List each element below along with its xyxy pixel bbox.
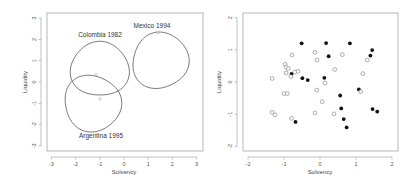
open-point [332,112,336,116]
right-plot-panel: -2-1012 -2-1012 Solvency Liquidity [216,13,398,175]
right-x-axis-title: Solvency [308,169,332,175]
y-tick-label: 2 [31,38,37,41]
left-plot-panel: -3-2-10123 -3-2-10123 Solvency Liquidity… [22,13,203,175]
x-tick-label: 2 [390,161,393,167]
x-tick-label: 1 [354,161,357,167]
x-tick-label: 1 [147,161,150,167]
open-point [320,100,324,104]
curve-marker [157,32,159,34]
open-point [333,68,337,72]
open-point [315,88,319,92]
filled-point [327,54,331,58]
filled-point [375,110,379,114]
left-curves [65,32,189,132]
x-tick-label: -2 [246,161,251,167]
open-point [365,58,369,62]
open-point [313,50,317,54]
filled-point [339,107,343,111]
filled-point [369,54,373,58]
filled-point [348,41,352,45]
left-y-axis: -3-2-10123 [31,17,41,149]
y-tick-label: 1 [31,59,37,62]
open-point [290,116,294,120]
left-y-axis-title: Liquidity [22,71,28,93]
y-tick-label: 0 [31,80,37,83]
y-tick-label: 2 [227,16,233,19]
filled-point [294,120,298,124]
y-tick-label: -3 [31,143,37,148]
curve-colombia [70,41,129,95]
open-point [284,71,288,75]
filled-point [324,41,328,45]
filled-point [345,126,349,130]
y-tick-label: -1 [227,112,233,117]
right-plot-frame [243,13,398,151]
left-x-axis: -3-2-10123 [49,157,198,167]
label-colombia: Colombia 1982 [78,31,122,38]
figure: -3-2-10123 -3-2-10123 Solvency Liquidity… [0,0,418,189]
filled-point [322,76,326,80]
left-x-axis-title: Solvency [112,169,136,175]
right-x-axis: -2-1012 [246,157,394,167]
y-tick-label: 0 [227,80,233,83]
left-plot-frame [47,13,203,151]
y-tick-label: -1 [31,101,37,106]
x-tick-label: 3 [195,161,198,167]
filled-point [370,48,374,52]
open-point [359,90,363,94]
open-point [273,113,277,117]
open-point [296,69,300,73]
right-y-axis-title: Liquidity [216,71,222,93]
filled-point [338,94,342,98]
filled-point [300,76,304,80]
x-tick-label: 0 [318,161,321,167]
label-mexico: Mexico 1994 [134,22,171,29]
y-tick-label: 1 [227,48,233,51]
open-point [323,81,327,85]
curve-marker [99,98,101,100]
open-point [340,53,344,57]
open-point [286,67,290,71]
curve-mexico [133,32,189,88]
x-tick-label: -2 [73,161,78,167]
open-point [315,58,319,62]
open-point [285,92,289,96]
x-tick-label: 0 [122,161,125,167]
label-argentina: Argentina 1995 [79,132,123,140]
x-tick-label: -1 [282,161,287,167]
filled-point [300,41,304,45]
filled-point [342,117,346,121]
right-y-axis: -2-1012 [227,16,237,149]
open-point [270,77,274,81]
right-scatter-points [270,41,379,129]
x-tick-label: 2 [171,161,174,167]
y-tick-label: 3 [31,17,37,20]
curve-marker [95,73,97,75]
open-point [361,72,365,76]
open-point [290,53,294,57]
open-point [313,111,317,115]
y-tick-label: -2 [31,122,37,127]
open-point [289,75,293,79]
filled-point [371,107,375,111]
x-tick-label: -3 [49,161,54,167]
x-tick-label: -1 [97,161,102,167]
filled-point [306,78,310,82]
y-tick-label: -2 [227,144,233,149]
